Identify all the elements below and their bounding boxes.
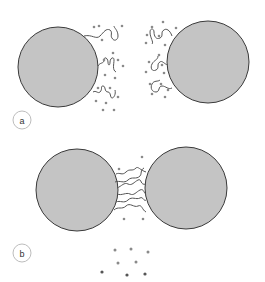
- released-molecules-b: [100, 248, 149, 277]
- particle-right-b: [145, 147, 227, 229]
- particle-left-b: [36, 149, 118, 231]
- remaining-molecules-b: [118, 156, 145, 221]
- panel-label-b-text: b: [19, 249, 24, 259]
- panel-label-a: a: [13, 111, 31, 129]
- particle-right-a: [167, 21, 249, 103]
- panel-label-a-text: a: [19, 116, 24, 126]
- diagram-canvas: a: [0, 0, 265, 282]
- interpenetrating-chains-b: [114, 167, 146, 212]
- panel-b: b: [13, 147, 227, 277]
- particle-left-a: [18, 27, 98, 107]
- panel-label-b: b: [13, 244, 31, 262]
- panel-a: a: [13, 21, 249, 129]
